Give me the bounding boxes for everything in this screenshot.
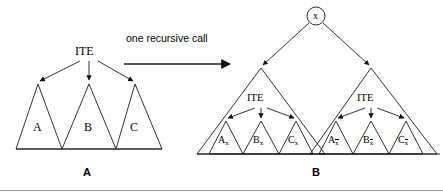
recursive-call-label: one recursive call — [126, 33, 208, 44]
edge-ite-to-A — [40, 61, 80, 81]
leaf-sub-Cx: x — [295, 139, 298, 146]
left-tree-triangles — [16, 84, 162, 149]
diagram-canvas — [0, 0, 443, 196]
leaf-sub-Bx: x — [260, 139, 263, 146]
leaf-label-Axbar: Ax — [328, 135, 339, 147]
triangle-C — [116, 84, 162, 149]
leaf-base-Cxbar: C — [398, 134, 405, 145]
subtree-right-root-label: ITE — [357, 93, 373, 104]
root-node-label: x — [313, 11, 318, 21]
leaf-label-C: C — [130, 121, 138, 133]
caption-B: B — [312, 167, 320, 178]
leaf-label-Cx: Cx — [288, 135, 298, 147]
edge-itexbar-to-Cxbar — [377, 108, 404, 118]
leaf-sub-Ax: x — [225, 139, 228, 146]
leaf-label-Bxbar: Bx — [363, 135, 373, 147]
edge-itex-to-Cx — [267, 108, 294, 118]
leaf-sub-Cxbar: x — [405, 139, 408, 146]
leaf-label-Ax: Ax — [218, 135, 229, 147]
leaf-base-Bx: B — [253, 134, 260, 145]
leaf-sub-Axbar: x — [335, 139, 338, 146]
leaf-label-Bx: Bx — [253, 135, 263, 147]
edge-root-to-left-subtree — [263, 23, 309, 65]
left-tree-edges — [40, 61, 133, 81]
triangle-A — [16, 84, 62, 149]
right-tree — [197, 7, 440, 154]
caption-A: A — [83, 167, 91, 178]
leaf-label-A: A — [33, 121, 42, 133]
leaf-label-Cxbar: Cx — [398, 135, 408, 147]
leaf-sub-Bxbar: x — [370, 139, 373, 146]
leaf-base-Cx: C — [288, 134, 295, 145]
edge-itex-to-Ax — [228, 108, 255, 118]
triangle-B — [62, 84, 116, 149]
leaf-label-B: B — [84, 121, 92, 133]
edge-root-to-right-subtree — [323, 23, 369, 65]
subtree-left-root-label: ITE — [247, 93, 263, 104]
leaf-base-Bxbar: B — [363, 134, 370, 145]
figure-ite-recursive-call: ITE A B C A one recursive call x ITE Ax … — [0, 0, 443, 196]
left-root-label: ITE — [75, 45, 94, 57]
